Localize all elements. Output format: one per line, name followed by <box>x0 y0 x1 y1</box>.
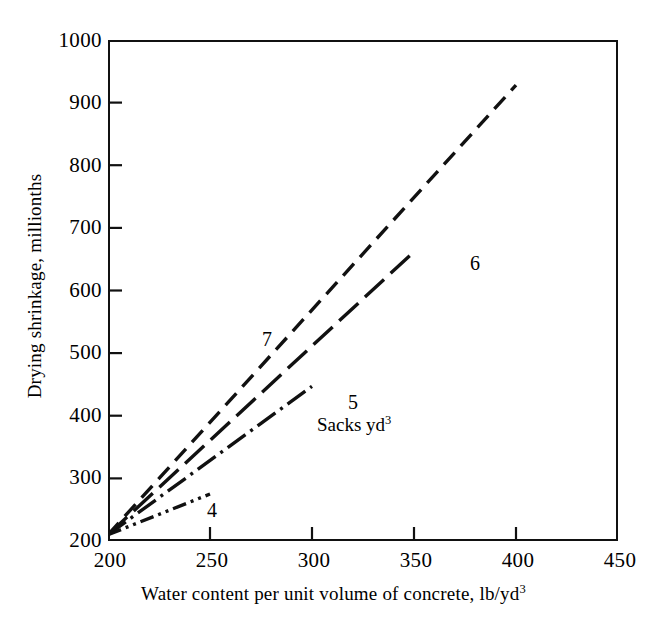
x-tick-label-300: 300 <box>274 550 354 571</box>
x-tick-label-250: 250 <box>172 550 252 571</box>
y-tick-label-300: 300 <box>36 467 102 488</box>
series-unit-note: Sacks yd3 <box>317 415 391 434</box>
y-tick-label-200: 200 <box>36 530 102 551</box>
x-tick-label-200: 200 <box>70 550 150 571</box>
chart-figure: 1000 900 800 700 600 500 400 300 200 <box>0 0 667 632</box>
series-label-7: 7 <box>262 329 272 349</box>
x-tick-label-400: 400 <box>478 550 558 571</box>
x-tick-label-450: 450 <box>580 550 660 571</box>
series-label-5: 5 <box>348 392 358 412</box>
x-axis-title: Water content per unit volume of concret… <box>0 583 667 605</box>
series-line-4 <box>108 494 210 535</box>
y-axis-title: Drying shrinkage, millionths <box>24 126 46 446</box>
x-axis-title-superscript: 3 <box>519 582 525 596</box>
unit-note-superscript: 3 <box>385 413 391 427</box>
y-axis-ticks <box>108 103 122 479</box>
series-line-6 <box>108 252 414 535</box>
y-tick-label-900: 900 <box>36 92 102 113</box>
plot-canvas <box>108 40 618 541</box>
series-label-6: 6 <box>470 253 480 273</box>
series-line-7 <box>108 85 516 535</box>
x-tick-label-350: 350 <box>376 550 456 571</box>
x-axis-title-text: Water content per unit volume of concret… <box>141 583 519 604</box>
y-tick-label-1000: 1000 <box>36 30 102 51</box>
x-axis-tick-labels: 200 250 300 350 400 450 <box>0 550 667 580</box>
x-axis-ticks <box>210 527 516 541</box>
series-label-4: 4 <box>207 500 217 520</box>
unit-note-text: Sacks yd <box>317 414 385 435</box>
